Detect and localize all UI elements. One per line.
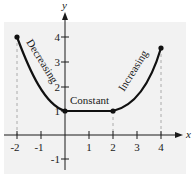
y-tick-label: 2 [55,81,61,93]
x-tick-label: 3 [134,141,140,153]
point-constant-end [110,108,115,113]
constant-label: Constant [70,94,109,106]
x-tick-label: 4 [158,141,164,153]
y-tick-label: -1 [51,153,60,165]
point-left-endpoint [14,34,19,39]
x-tick-label: 1 [86,141,92,153]
x-tick-label: -2 [10,141,19,153]
x-tick-label: 2 [110,141,116,153]
point-constant-start [62,108,67,113]
y-tick-label: 4 [55,31,61,43]
x-axis-label: x [185,128,191,140]
y-axis-arrow-icon [62,12,68,20]
x-tick-label: -1 [34,141,43,153]
y-tick-label: 3 [55,56,61,68]
y-axis-label: y [61,0,67,11]
function-graph: -2 -1 1 2 3 4 1 2 3 4 -1 y x Decreasing … [0,0,193,179]
point-right-endpoint [158,45,163,50]
